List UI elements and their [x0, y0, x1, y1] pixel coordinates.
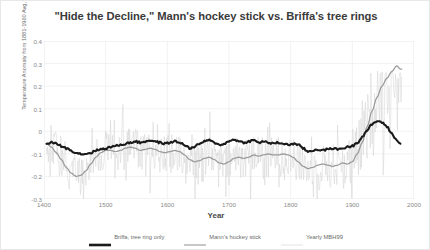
y-tick-label: 0.2 [12, 83, 42, 90]
chart-svg [44, 41, 414, 199]
y-tick-label: 0.1 [12, 105, 42, 112]
legend-entry[interactable]: Briffa, tree ring only [89, 234, 164, 240]
y-tick-label: -0.2 [12, 173, 42, 180]
legend-label: Mann's hockey stick [209, 234, 261, 240]
legend-line-icon [281, 234, 303, 240]
legend-label: Briffa, tree ring only [114, 234, 164, 240]
legend-line-icon [184, 234, 206, 240]
x-axis-title: Year [1, 211, 430, 220]
legend-label: Yearly MBH99 [306, 234, 343, 240]
legend-entry[interactable]: Yearly MBH99 [281, 234, 343, 240]
x-tick-label: 1600 [160, 201, 174, 208]
chart-container: "Hide the Decline," Mann's hockey stick … [0, 0, 430, 250]
y-tick-label: 0.3 [12, 60, 42, 67]
x-tick-label: 1400 [37, 201, 51, 208]
legend-entry[interactable]: Mann's hockey stick [184, 234, 261, 240]
x-tick-label: 1900 [345, 201, 359, 208]
series-yearly-mbh99 [46, 70, 401, 199]
series-briffa-tree-ring [46, 121, 400, 154]
chart-legend: Briffa, tree ring onlyMann's hockey stic… [1, 231, 430, 243]
y-tick-label: 0 [12, 128, 42, 135]
x-tick-label: 1700 [222, 201, 236, 208]
plot-area [44, 41, 414, 199]
x-tick-label: 1800 [284, 201, 298, 208]
y-tick-label: 0.4 [12, 38, 42, 45]
x-tick-label: 1500 [99, 201, 113, 208]
y-tick-label: -0.1 [12, 150, 42, 157]
chart-title: "Hide the Decline," Mann's hockey stick … [1, 10, 430, 22]
x-tick-label: 2000 [407, 201, 421, 208]
legend-line-icon [89, 234, 111, 240]
